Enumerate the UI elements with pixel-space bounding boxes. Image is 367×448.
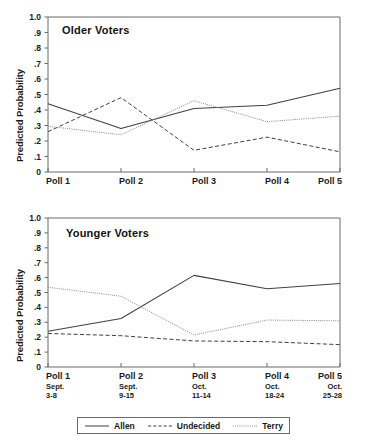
y-tick-label: .4 bbox=[12, 302, 41, 312]
x-tick-poll-label: Poll 3 bbox=[192, 371, 216, 382]
legend-entry-undecided: Undecided bbox=[147, 421, 220, 431]
legend-swatch-undecided bbox=[147, 422, 173, 430]
x-tick-label: Poll 2Sept.9-15 bbox=[119, 371, 143, 400]
x-tick-poll-label: Poll 2 bbox=[119, 371, 143, 382]
y-tick-label: .4 bbox=[12, 105, 41, 115]
x-tick-poll-label: Poll 4 bbox=[265, 371, 289, 382]
legend-swatch-terry bbox=[232, 422, 258, 430]
x-tick-month-label: Oct. bbox=[192, 382, 216, 391]
x-tick-days-label: 18-24 bbox=[265, 391, 289, 400]
figure-predicted-probability: Predicted Probability Older Voters 1.0.9… bbox=[0, 0, 367, 448]
y-tick-label: .2 bbox=[12, 332, 41, 342]
y-tick-label: .6 bbox=[12, 74, 41, 84]
x-tick-days-label: 11-14 bbox=[192, 391, 216, 400]
x-tick-month-label: Oct. bbox=[265, 382, 289, 391]
y-tick-label: .6 bbox=[12, 273, 41, 283]
y-tick-label: .8 bbox=[12, 43, 41, 53]
y-tick-label: .9 bbox=[12, 228, 41, 238]
legend-entry-terry: Terry bbox=[232, 421, 283, 431]
legend-entry-allen: Allen bbox=[84, 421, 135, 431]
x-tick-label: Poll 2 bbox=[119, 176, 143, 187]
y-tick-label: .9 bbox=[12, 28, 41, 38]
x-tick-month-label: Sept. bbox=[119, 382, 143, 391]
series-line-undecided bbox=[48, 98, 340, 152]
legend-label-undecided: Undecided bbox=[177, 421, 220, 431]
y-tick-label: .3 bbox=[12, 317, 41, 327]
x-tick-label: Poll 5Oct.25-28 bbox=[306, 371, 342, 400]
y-tick-label: 1.0 bbox=[12, 213, 41, 223]
y-tick-label: 1.0 bbox=[12, 12, 41, 22]
x-tick-label: Poll 3Oct.11-14 bbox=[192, 371, 216, 400]
x-tick-poll-label: Poll 1 bbox=[46, 371, 70, 382]
plot-area-older bbox=[0, 0, 367, 196]
y-tick-label: 0 bbox=[12, 167, 41, 177]
x-tick-label: Poll 4 bbox=[265, 176, 289, 187]
y-tick-label: .8 bbox=[12, 243, 41, 253]
x-tick-poll-label: Poll 4 bbox=[265, 176, 289, 187]
chart-legend: Allen Undecided Terry bbox=[77, 417, 290, 434]
x-tick-days-label: 25-28 bbox=[306, 391, 342, 400]
y-tick-label: .2 bbox=[12, 136, 41, 146]
legend-label-terry: Terry bbox=[262, 421, 283, 431]
x-tick-month-label: Oct. bbox=[306, 382, 342, 391]
x-tick-days-label: 9-15 bbox=[119, 391, 143, 400]
x-tick-poll-label: Poll 3 bbox=[192, 176, 216, 187]
x-tick-label: Poll 1Sept.3-8 bbox=[46, 371, 70, 400]
y-tick-label: .5 bbox=[12, 90, 41, 100]
x-tick-poll-label: Poll 1 bbox=[46, 176, 70, 187]
y-tick-label: .7 bbox=[12, 258, 41, 268]
x-tick-poll-label: Poll 2 bbox=[119, 176, 143, 187]
x-tick-month-label: Sept. bbox=[46, 382, 70, 391]
chart-title-older: Older Voters bbox=[62, 24, 130, 36]
series-line-allen bbox=[48, 88, 340, 128]
y-tick-label: .1 bbox=[12, 152, 41, 162]
y-tick-label: .1 bbox=[12, 347, 41, 357]
series-line-undecided bbox=[48, 333, 340, 344]
x-tick-days-label: 3-8 bbox=[46, 391, 70, 400]
chart-panel-older-voters: Predicted Probability Older Voters 1.0.9… bbox=[0, 0, 367, 196]
x-tick-label: Poll 1 bbox=[46, 176, 70, 187]
x-tick-poll-label: Poll 5 bbox=[306, 176, 342, 187]
chart-title-younger: Younger Voters bbox=[66, 227, 149, 239]
legend-label-allen: Allen bbox=[114, 421, 135, 431]
x-tick-label: Poll 5 bbox=[306, 176, 342, 187]
x-tick-poll-label: Poll 5 bbox=[306, 371, 342, 382]
series-line-terry bbox=[48, 287, 340, 335]
y-tick-label: .7 bbox=[12, 59, 41, 69]
y-tick-label: .3 bbox=[12, 121, 41, 131]
series-line-allen bbox=[48, 275, 340, 331]
chart-panel-younger-voters: Predicted Probability Younger Voters 1.0… bbox=[0, 205, 367, 410]
legend-swatch-allen bbox=[84, 422, 110, 430]
x-tick-label: Poll 4Oct.18-24 bbox=[265, 371, 289, 400]
series-line-terry bbox=[48, 101, 340, 135]
y-tick-label: 0 bbox=[12, 362, 41, 372]
x-tick-label: Poll 3 bbox=[192, 176, 216, 187]
y-tick-label: .5 bbox=[12, 288, 41, 298]
